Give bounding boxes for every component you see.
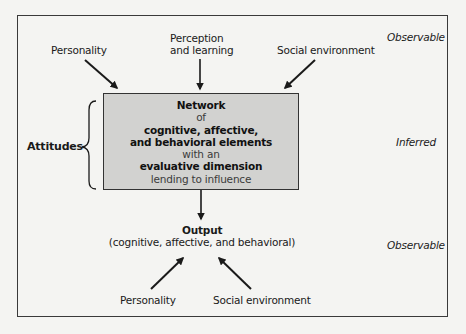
arrow-personality-to-network [85, 60, 117, 88]
arrow-social-to-network [285, 60, 315, 88]
attitudes-brace-icon [82, 101, 96, 189]
diagram-arrows [0, 0, 466, 334]
arrow-social-to-output [219, 258, 251, 289]
arrow-personality-to-output [151, 258, 183, 289]
